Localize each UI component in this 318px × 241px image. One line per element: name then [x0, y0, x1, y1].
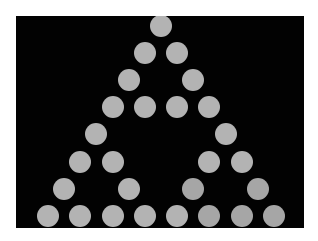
- circle-dot: [85, 123, 107, 145]
- circle-dot: [69, 151, 91, 173]
- circle-dot: [53, 178, 75, 200]
- circle-dot: [134, 96, 156, 118]
- circle-dot: [118, 69, 140, 91]
- circle-dot: [166, 42, 188, 64]
- circle-dot: [231, 151, 253, 173]
- circle-dot: [247, 178, 269, 200]
- sierpinski-panel: [16, 16, 304, 228]
- circle-dot: [102, 151, 124, 173]
- circle-dot: [134, 205, 156, 227]
- circle-dot: [102, 96, 124, 118]
- circle-dot: [198, 205, 220, 227]
- circle-dot: [37, 205, 59, 227]
- circle-dot: [198, 96, 220, 118]
- circle-dot: [182, 178, 204, 200]
- circle-dot: [102, 205, 124, 227]
- circle-dot: [166, 205, 188, 227]
- circle-dot: [69, 205, 91, 227]
- circle-dot: [182, 69, 204, 91]
- circle-dot: [198, 151, 220, 173]
- circle-dot: [118, 178, 140, 200]
- circle-dot: [166, 96, 188, 118]
- circle-dot: [150, 16, 172, 37]
- circle-dot: [134, 42, 156, 64]
- circle-dot: [231, 205, 253, 227]
- circle-dot: [215, 123, 237, 145]
- circle-dot: [263, 205, 285, 227]
